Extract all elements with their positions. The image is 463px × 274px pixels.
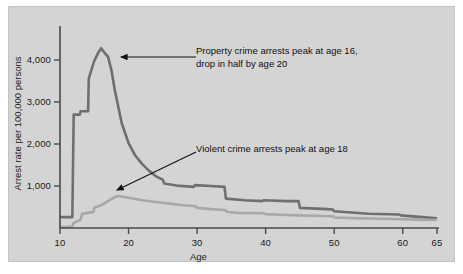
x-tick-label: 20 — [114, 237, 144, 248]
y-tick-label: 1,000 — [12, 180, 51, 191]
series-line-property — [60, 48, 437, 218]
x-tick-label: 65 — [422, 237, 452, 248]
x-tick-label: 60 — [388, 237, 418, 248]
x-axis-label: Age — [190, 251, 207, 262]
violent-crime-annotation: Violent crime arrests peak at age 18 — [196, 143, 348, 156]
chart-plot — [0, 0, 463, 274]
x-tick-label: 50 — [319, 237, 349, 248]
series-group — [60, 48, 437, 227]
annotation-arrows — [117, 57, 196, 190]
x-tick-label: 30 — [182, 237, 212, 248]
x-tick-label: 40 — [251, 237, 281, 248]
y-tick-label: 2,000 — [12, 138, 51, 149]
property-crime-annotation: Property crime arrests peak at age 16, d… — [196, 45, 358, 70]
y-tick-label: 3,000 — [12, 96, 51, 107]
y-tick-label: 4,000 — [12, 54, 51, 65]
x-tick-label: 10 — [45, 237, 75, 248]
chart-figure: Arrest rate per 100,000 persons Age 1,00… — [0, 0, 463, 274]
annotation-arrow-violent — [117, 152, 196, 190]
